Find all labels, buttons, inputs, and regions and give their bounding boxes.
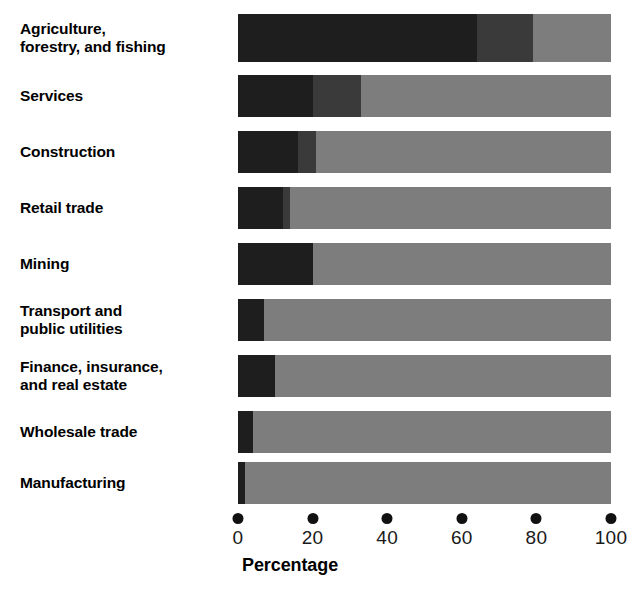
x-tick-label: 40: [376, 527, 398, 549]
bars-area: Agriculture, forestry, and fishingServic…: [0, 0, 642, 505]
x-tick-marker: [456, 513, 467, 524]
x-tick-label: 80: [526, 527, 548, 549]
bar-track: [238, 299, 611, 341]
bar-segment-darkest: [238, 187, 283, 229]
bar-segment-light: [361, 75, 611, 117]
category-label: Retail trade: [20, 199, 230, 217]
category-label: Finance, insurance, and real estate: [20, 358, 230, 394]
bar-row: Wholesale trade: [0, 411, 642, 453]
bar-segment-light: [245, 462, 611, 504]
x-axis-title: Percentage: [242, 555, 338, 576]
bar-row: Mining: [0, 243, 642, 285]
bar-row: Manufacturing: [0, 462, 642, 504]
bar-segment-darkest: [238, 75, 313, 117]
bar-segment-light: [275, 355, 611, 397]
x-tick-label: 0: [233, 527, 244, 549]
bar-track: [238, 462, 611, 504]
x-tick-label: 100: [595, 527, 628, 549]
category-label: Services: [20, 87, 230, 105]
bar-segment-light: [533, 14, 611, 62]
category-label: Transport and public utilities: [20, 302, 230, 338]
bar-segment-darkest: [238, 243, 313, 285]
x-tick-label: 20: [302, 527, 324, 549]
bar-row: Services: [0, 75, 642, 117]
bar-segment-medium: [298, 131, 317, 173]
bar-segment-medium: [477, 14, 533, 62]
x-tick-marker: [382, 513, 393, 524]
bar-segment-medium: [313, 75, 361, 117]
bar-track: [238, 187, 611, 229]
bar-segment-light: [313, 243, 611, 285]
bar-segment-darkest: [238, 14, 477, 62]
x-tick-marker: [233, 513, 244, 524]
bar-segment-medium: [283, 187, 290, 229]
x-axis: Percentage 020406080100: [0, 505, 642, 597]
bar-track: [238, 131, 611, 173]
x-tick-marker: [307, 513, 318, 524]
bar-segment-darkest: [238, 462, 245, 504]
bar-row: Agriculture, forestry, and fishing: [0, 14, 642, 62]
stacked-bar-chart: Agriculture, forestry, and fishingServic…: [0, 0, 642, 597]
x-tick-label: 60: [451, 527, 473, 549]
bar-row: Retail trade: [0, 187, 642, 229]
bar-segment-darkest: [238, 355, 275, 397]
bar-segment-darkest: [238, 131, 298, 173]
category-label: Mining: [20, 255, 230, 273]
bar-segment-darkest: [238, 299, 264, 341]
bar-track: [238, 411, 611, 453]
category-label: Wholesale trade: [20, 423, 230, 441]
category-label: Agriculture, forestry, and fishing: [20, 20, 230, 56]
category-label: Manufacturing: [20, 474, 230, 492]
bar-track: [238, 355, 611, 397]
bar-segment-light: [253, 411, 611, 453]
bar-segment-light: [290, 187, 611, 229]
bar-row: Construction: [0, 131, 642, 173]
x-tick-marker: [606, 513, 617, 524]
bar-segment-light: [264, 299, 611, 341]
bar-track: [238, 243, 611, 285]
bar-row: Transport and public utilities: [0, 299, 642, 341]
x-tick-marker: [531, 513, 542, 524]
category-label: Construction: [20, 143, 230, 161]
bar-segment-light: [316, 131, 611, 173]
bar-row: Finance, insurance, and real estate: [0, 355, 642, 397]
bar-track: [238, 14, 611, 62]
bar-track: [238, 75, 611, 117]
bar-segment-darkest: [238, 411, 253, 453]
